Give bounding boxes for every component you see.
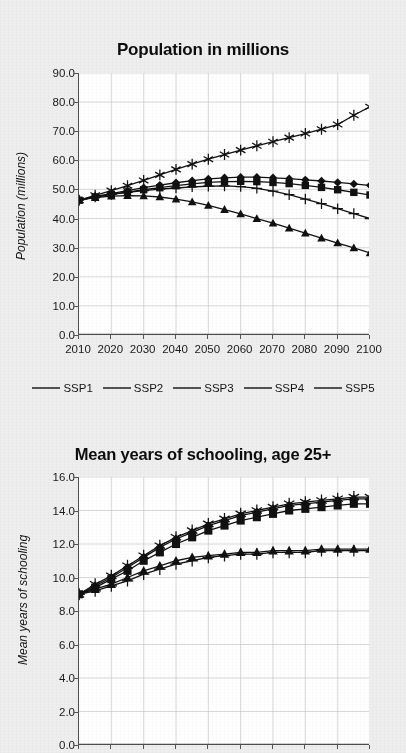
y-axis-tick-label: 10.0 (53, 572, 75, 584)
y-axis-tick-label: 0.0 (59, 329, 75, 341)
legend-item-label: SSP2 (134, 382, 163, 394)
x-axis-tick-label: 2010 (65, 343, 91, 355)
y-axis-tick-mark (74, 131, 79, 132)
y-axis-tick-label: 50.0 (53, 183, 75, 195)
x-axis-tick-mark (240, 335, 241, 339)
y-axis-label-schooling: Mean years of schooling (16, 535, 30, 665)
triangle-marker-icon (172, 380, 202, 396)
y-axis-tick-label: 30.0 (53, 242, 75, 254)
x-axis-tick-mark (110, 335, 111, 339)
y-axis-tick-label: 40.0 (53, 213, 75, 225)
chart-title-schooling: Mean years of schooling, age 25+ (0, 445, 406, 464)
y-axis-tick-mark (74, 578, 79, 579)
x-axis-tick-label: 2020 (98, 343, 124, 355)
x-axis-tick-mark (143, 335, 144, 339)
y-axis-tick-mark (74, 160, 79, 161)
y-axis-tick-mark (74, 277, 79, 278)
y-axis-tick-mark (74, 611, 79, 612)
x-axis-tick-mark (110, 745, 111, 749)
x-axis-tick-label: 2030 (130, 343, 156, 355)
x-axis-tick-label: 2040 (162, 343, 188, 355)
x-axis-tick-mark (78, 335, 79, 339)
y-axis-tick-label: 20.0 (53, 271, 75, 283)
x-axis-tick-mark (272, 335, 273, 339)
x-axis-tick-mark (337, 745, 338, 749)
diamond-marker-icon (31, 380, 61, 396)
asterisk-marker-icon (313, 380, 343, 396)
x-axis-tick-label: 2060 (227, 343, 253, 355)
legend-item-ssp3[interactable]: SSP3 (172, 380, 233, 396)
y-axis-tick-label: 4.0 (59, 672, 75, 684)
y-axis-tick-label: 16.0 (53, 471, 75, 483)
x-axis-tick-mark (78, 745, 79, 749)
y-axis-tick-mark (74, 645, 79, 646)
y-axis-tick-mark (74, 544, 79, 545)
x-axis-tick-mark (175, 745, 176, 749)
x-axis-tick-label: 2050 (195, 343, 221, 355)
y-axis-tick-label: 60.0 (53, 154, 75, 166)
y-axis-tick-label: 12.0 (53, 538, 75, 550)
y-axis-tick-mark (74, 189, 79, 190)
legend-item-label: SSP5 (345, 382, 374, 394)
y-axis-tick-label: 2.0 (59, 706, 75, 718)
plot-area-schooling (78, 477, 369, 745)
x-axis-tick-label: 2090 (324, 343, 350, 355)
y-axis-tick-mark (74, 73, 79, 74)
legend-item-ssp1[interactable]: SSP1 (31, 380, 92, 396)
square-marker-icon (102, 380, 132, 396)
x-axis-tick-mark (304, 335, 305, 339)
scanned-figure-page: Population in millions Population (milli… (0, 0, 406, 753)
x-axis-tick-mark (175, 335, 176, 339)
x-axis-tick-mark (369, 745, 370, 749)
legend-item-label: SSP4 (275, 382, 304, 394)
x-axis-tick-mark (240, 745, 241, 749)
legend-item-ssp5[interactable]: SSP5 (313, 380, 374, 396)
y-axis-tick-label: 14.0 (53, 505, 75, 517)
y-axis-tick-mark (74, 678, 79, 679)
y-axis-label-population: Population (millions) (14, 152, 28, 260)
y-axis-tick-mark (74, 712, 79, 713)
legend-item-ssp2[interactable]: SSP2 (102, 380, 163, 396)
schooling-chart-panel: Mean years of schooling, age 25+ Mean ye… (0, 415, 406, 753)
y-axis-tick-mark (74, 102, 79, 103)
legend: SSP1SSP2SSP3SSP4SSP5 (0, 380, 406, 396)
y-axis-tick-mark (74, 511, 79, 512)
x-axis-tick-mark (207, 745, 208, 749)
chart-title-population: Population in millions (0, 40, 406, 60)
x-axis-tick-mark (304, 745, 305, 749)
x-axis-tick-mark (143, 745, 144, 749)
legend-item-label: SSP1 (63, 382, 92, 394)
y-axis-tick-mark (74, 219, 79, 220)
y-axis-tick-label: 6.0 (59, 639, 75, 651)
x-axis-tick-mark (337, 335, 338, 339)
y-axis-tick-label: 8.0 (59, 605, 75, 617)
y-axis-tick-label: 0.0 (59, 739, 75, 751)
x-axis-tick-label: 2080 (292, 343, 318, 355)
y-axis-tick-mark (74, 306, 79, 307)
x-axis-tick-mark (207, 335, 208, 339)
legend-item-label: SSP3 (204, 382, 233, 394)
x-axis-tick-mark (369, 335, 370, 339)
plus-marker-icon (243, 380, 273, 396)
y-axis-tick-label: 10.0 (53, 300, 75, 312)
x-axis-tick-mark (272, 745, 273, 749)
x-axis-tick-label: 2100 (356, 343, 382, 355)
y-axis-tick-label: 90.0 (53, 67, 75, 79)
y-axis-tick-mark (74, 248, 79, 249)
population-chart-panel: Population in millions Population (milli… (0, 0, 406, 360)
y-axis-tick-label: 80.0 (53, 96, 75, 108)
legend-item-ssp4[interactable]: SSP4 (243, 380, 304, 396)
y-axis-tick-mark (74, 477, 79, 478)
x-axis-tick-label: 2070 (259, 343, 285, 355)
y-axis-tick-label: 70.0 (53, 125, 75, 137)
plot-area-population (78, 73, 369, 335)
